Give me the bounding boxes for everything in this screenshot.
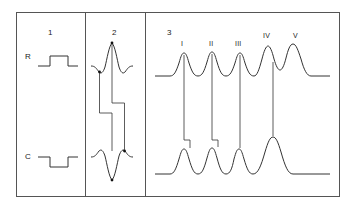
marker-panel2-R-min [98,71,101,74]
trace-panel2-C [91,150,133,180]
trace-panel3-resolved [155,137,330,174]
marker-panel2-C-max [123,150,126,153]
connector-panel2-left [100,73,113,151]
marker-panel2-C-min [111,179,114,182]
figure-diagram: 1 2 3 R C I II III IV V [0,0,356,210]
marker-panel2-R-max [111,42,114,45]
connector-panel2-right [112,44,125,150]
connector-peak-I [184,55,190,148]
trace-panel3-observed [155,44,330,76]
figure-traces [0,0,356,210]
trace-panel1-R [38,56,78,66]
trace-panel1-C [38,157,78,167]
connector-peak-II [212,54,218,147]
